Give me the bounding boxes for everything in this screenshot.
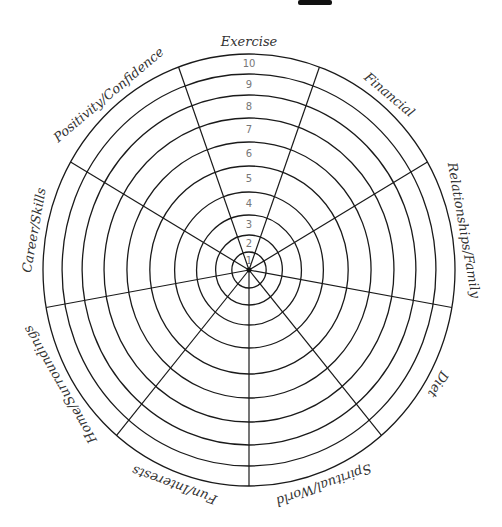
spoke-1 xyxy=(249,67,319,270)
spoke-4 xyxy=(249,270,381,435)
spoke-2 xyxy=(249,162,427,270)
scale-number-6: 6 xyxy=(246,148,252,159)
spoke-6 xyxy=(117,270,249,435)
category-label-exercise: Exercise xyxy=(220,34,278,49)
category-label-home-surroundings: Home/Surroundings xyxy=(20,323,100,447)
category-label-fun-interests: Fun/Interests xyxy=(130,463,220,508)
spoke-3 xyxy=(249,270,452,308)
category-label-relationships-family: Relationships/Family xyxy=(445,160,484,300)
scale-number-5: 5 xyxy=(246,173,252,184)
black-mark xyxy=(298,0,332,5)
scale-number-8: 8 xyxy=(246,101,252,112)
scale-number-3: 3 xyxy=(246,219,252,230)
category-label-career-skills: Career/Skills xyxy=(19,186,49,273)
category-label-spiritual-world: Spiritual/World xyxy=(274,461,374,510)
spoke-9 xyxy=(179,67,249,270)
category-label-diet: Diet xyxy=(424,368,452,401)
scale-number-7: 7 xyxy=(246,124,252,135)
scale-number-4: 4 xyxy=(246,198,252,209)
scale-number-1: 1 xyxy=(246,255,252,266)
spoke-7 xyxy=(46,270,249,308)
scale-number-9: 9 xyxy=(246,79,252,90)
scale-number-10: 10 xyxy=(243,58,256,69)
center-dot xyxy=(247,268,252,273)
scale-number-2: 2 xyxy=(246,238,252,249)
life-wheel-diagram: 12345678910 ExerciseFinancialRelationshi… xyxy=(0,0,502,527)
spoke-8 xyxy=(71,162,249,270)
